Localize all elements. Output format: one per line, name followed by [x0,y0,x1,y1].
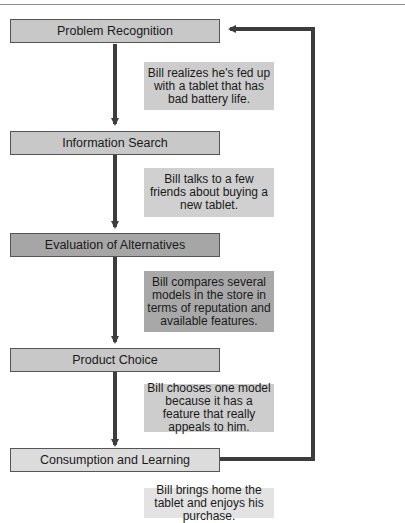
stage-evaluation-of-alternatives: Evaluation of Alternatives [10,233,220,257]
note-product-choice: Bill chooses one model because it has a … [144,384,274,432]
note-problem-recognition: Bill realizes he's fed up with a tablet … [144,62,274,110]
stage-product-choice: Product Choice [10,348,220,372]
note-evaluation-of-alternatives: Bill compares several models in the stor… [144,271,274,332]
note-consumption-and-learning: Bill brings home the tablet and enjoys h… [144,488,274,518]
stage-consumption-and-learning: Consumption and Learning [10,448,220,472]
stage-problem-recognition: Problem Recognition [10,19,220,43]
note-information-search: Bill talks to a few friends about buying… [144,168,274,217]
stage-information-search: Information Search [10,131,220,155]
